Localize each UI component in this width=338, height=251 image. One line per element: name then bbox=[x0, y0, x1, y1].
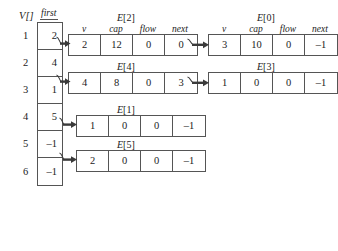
vertex-array: 1 2 2 4 3 1 4 5 5 –1 6 –1 bbox=[37, 22, 63, 186]
record-title-e5: E[5] bbox=[117, 140, 135, 150]
vertex-index: 4 bbox=[23, 112, 28, 123]
record-title-index: [5] bbox=[123, 139, 135, 150]
first-field-label: first bbox=[40, 8, 58, 20]
record-title-e3: E[3] bbox=[257, 62, 275, 72]
edge-record-e4: 4 8 0 3 bbox=[68, 72, 198, 94]
cell-next: –1 bbox=[173, 151, 205, 171]
cell-v: 1 bbox=[77, 116, 109, 136]
cell-flow: 0 bbox=[273, 35, 305, 55]
cell-next: 0 bbox=[165, 35, 197, 55]
cell-flow: 0 bbox=[133, 35, 165, 55]
vertex-first-value: –1 bbox=[47, 166, 58, 177]
cell-cap: 0 bbox=[109, 151, 141, 171]
record-title-e1: E[1] bbox=[117, 105, 135, 115]
cell-cap: 0 bbox=[241, 73, 273, 93]
edge-record-e2: 2 12 0 0 bbox=[68, 34, 198, 56]
cell-flow: 0 bbox=[141, 116, 173, 136]
vertex-first-value: 4 bbox=[52, 58, 57, 69]
vertex-row: 4 5 bbox=[38, 104, 62, 131]
vertex-index: 6 bbox=[23, 166, 28, 177]
cell-v: 1 bbox=[209, 73, 241, 93]
edge-record-e3: 1 0 0 –1 bbox=[208, 72, 338, 94]
vertex-row: 6 –1 bbox=[38, 158, 62, 185]
vertex-first-value: 2 bbox=[52, 31, 57, 42]
cell-v: 2 bbox=[69, 35, 101, 55]
cell-v: 3 bbox=[209, 35, 241, 55]
cell-flow: 0 bbox=[273, 73, 305, 93]
vertex-array-label: V[] bbox=[19, 10, 34, 21]
cell-flow: 0 bbox=[133, 73, 165, 93]
vertex-first-value: 5 bbox=[52, 112, 57, 123]
cell-flow: 0 bbox=[141, 151, 173, 171]
record-title-index: [3] bbox=[263, 61, 275, 72]
record-title-index: [1] bbox=[123, 104, 135, 115]
vertex-index: 1 bbox=[23, 31, 28, 42]
vertex-index: 2 bbox=[23, 58, 28, 69]
cell-next: 3 bbox=[165, 73, 197, 93]
cell-cap: 8 bbox=[101, 73, 133, 93]
vertex-row: 2 4 bbox=[38, 50, 62, 77]
edge-record-e5: 2 0 0 –1 bbox=[76, 150, 206, 172]
cell-v: 4 bbox=[69, 73, 101, 93]
edge-record-e0: 3 10 0 –1 bbox=[208, 34, 338, 56]
record-title-e0: E[0] bbox=[257, 13, 275, 23]
vertex-row: 3 1 bbox=[38, 77, 62, 104]
vertex-row: 1 2 bbox=[38, 23, 62, 50]
record-title-e4: E[4] bbox=[117, 62, 135, 72]
linked-list-adjacency-diagram: V[] first 1 2 2 4 3 1 4 5 5 –1 6 –1 v ca… bbox=[0, 0, 338, 251]
vertex-index: 3 bbox=[23, 85, 28, 96]
edge-record-e1: 1 0 0 –1 bbox=[76, 115, 206, 137]
vertex-first-value: 1 bbox=[52, 85, 57, 96]
cell-next: –1 bbox=[173, 116, 205, 136]
cell-cap: 12 bbox=[101, 35, 133, 55]
cell-cap: 10 bbox=[241, 35, 273, 55]
cell-next: –1 bbox=[305, 73, 337, 93]
cell-next: –1 bbox=[305, 35, 337, 55]
record-title-e2: E[2] bbox=[117, 13, 135, 23]
vertex-first-value: –1 bbox=[47, 139, 58, 150]
vertex-index: 5 bbox=[23, 139, 28, 150]
record-title-index: [2] bbox=[123, 12, 135, 23]
cell-cap: 0 bbox=[109, 116, 141, 136]
record-title-index: [0] bbox=[263, 12, 275, 23]
record-title-index: [4] bbox=[123, 61, 135, 72]
vertex-row: 5 –1 bbox=[38, 131, 62, 158]
cell-v: 2 bbox=[77, 151, 109, 171]
